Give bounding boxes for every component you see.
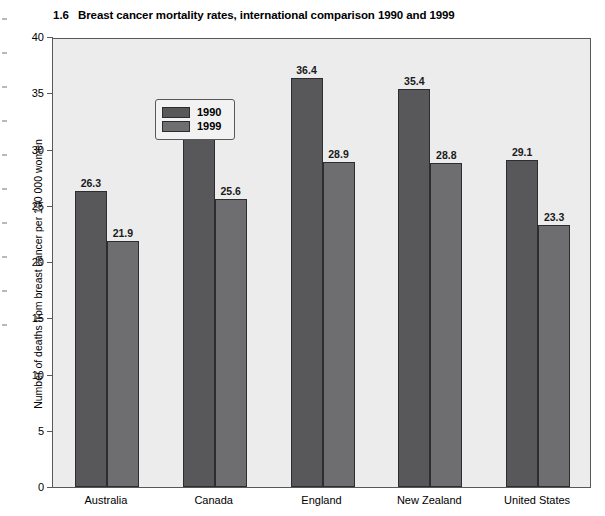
y-tick-label: 15 [32,312,44,324]
y-tick-mark [47,262,53,263]
bar-england-1990[interactable]: 36.4 [291,78,323,488]
x-category-label-united-states: United States [504,494,570,506]
bar-value-label: 25.6 [220,185,240,197]
y-tick-label: 25 [32,200,44,212]
y-tick-label: 35 [32,87,44,99]
bar-united-states-1990[interactable]: 29.1 [506,160,538,487]
bar-value-label: 28.8 [436,149,456,161]
bar-value-label: 21.9 [113,227,133,239]
bar-australia-1999[interactable]: 21.9 [107,241,139,487]
y-tick-mark [47,318,53,319]
bar-value-label: 28.9 [328,148,348,160]
y-tick-mark [47,150,53,151]
y-axis-title: Number of deaths from breast cancer per … [32,64,44,484]
x-category-label-new-zealand: New Zealand [397,494,462,506]
legend-label-1999: 1999 [197,121,221,132]
bar-value-label: 35.4 [404,75,424,87]
chart-legend: 1990 1999 [155,99,235,140]
y-tick-mark [47,93,53,94]
y-tick-label: 40 [32,31,44,43]
bar-canada-1999[interactable]: 25.6 [215,199,247,487]
y-tick-label: 20 [32,256,44,268]
y-tick-label: 10 [32,369,44,381]
x-category-label-australia: Australia [84,494,127,506]
bar-new-zealand-1990[interactable]: 35.4 [398,89,430,487]
bar-england-1999[interactable]: 28.9 [323,162,355,487]
figure-number: 1.6 [53,9,69,21]
bar-canada-1990[interactable]: 31.1 [183,137,215,487]
bar-value-label: 26.3 [81,177,101,189]
bar-australia-1990[interactable]: 26.3 [75,191,107,487]
y-tick-label: 0 [38,481,44,493]
figure-title: Breast cancer mortality rates, internati… [78,9,455,21]
y-tick-mark [47,37,53,38]
y-tick-label: 5 [38,425,44,437]
legend-item-1999[interactable]: 1999 [162,120,228,133]
x-category-label-canada: Canada [194,494,233,506]
y-tick-mark [47,206,53,207]
y-tick-mark [47,487,53,488]
scan-edge-artifacts [0,0,10,516]
bar-value-label: 36.4 [296,64,316,76]
bar-new-zealand-1999[interactable]: 28.8 [430,163,462,487]
plot-area: 0510152025303540 26.321.931.125.636.428.… [52,38,591,488]
y-tick-mark [47,375,53,376]
bar-value-label: 23.3 [544,211,564,223]
bar-value-label: 29.1 [512,146,532,158]
legend-item-1990[interactable]: 1990 [162,106,228,119]
legend-swatch-1999 [162,121,190,132]
y-tick-label: 30 [32,144,44,156]
bar-united-states-1999[interactable]: 23.3 [538,225,570,487]
y-tick-mark [47,431,53,432]
legend-swatch-1990 [162,107,190,118]
legend-label-1990: 1990 [197,107,221,118]
x-category-label-england: England [301,494,341,506]
